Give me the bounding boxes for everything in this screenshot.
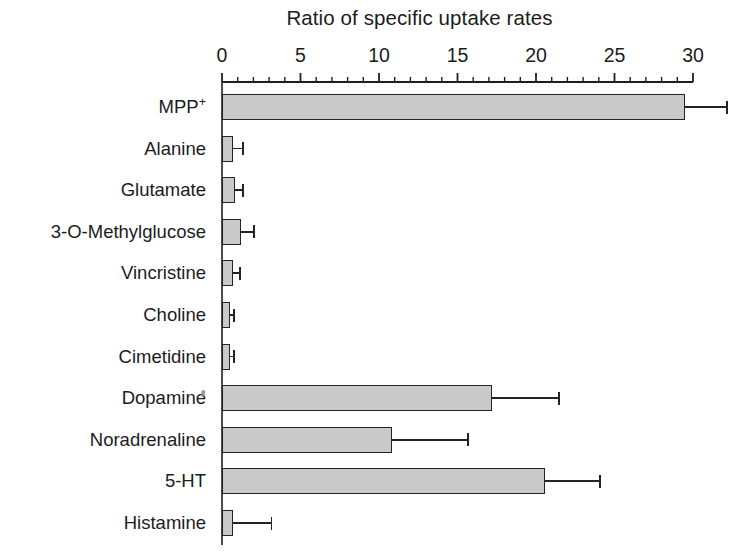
category-label-dopamine: Dopamine bbox=[122, 389, 206, 408]
error-bar-line-histamine bbox=[233, 522, 271, 524]
category-label-superscript: + bbox=[199, 95, 206, 109]
bar-histamine bbox=[222, 510, 233, 536]
error-bar-cap-5-ht bbox=[599, 475, 601, 488]
error-bar-line-3-o-methylglucose bbox=[241, 231, 254, 233]
category-label-glutamate: Glutamate bbox=[121, 181, 206, 200]
error-bar-line-mpp bbox=[685, 106, 726, 108]
category-label-text: 5-HT bbox=[165, 470, 206, 491]
bar-3-o-methylglucose bbox=[222, 219, 241, 245]
bar-cimetidine bbox=[222, 344, 230, 370]
category-label-text: Histamine bbox=[124, 512, 206, 533]
bar-chart-figure: Ratio of specific uptake rates 051015202… bbox=[0, 0, 751, 555]
bar-mpp bbox=[222, 94, 685, 120]
error-bar-cap-mpp bbox=[726, 101, 728, 114]
error-bar-cap-vincristine bbox=[239, 267, 241, 280]
category-label-text: Cimetidine bbox=[119, 345, 206, 366]
category-label-text: Dopamine bbox=[122, 387, 206, 408]
category-label-noradrenaline: Noradrenaline bbox=[90, 431, 206, 450]
bar-glutamate bbox=[222, 177, 235, 203]
category-label-choline: Choline bbox=[143, 306, 206, 325]
error-bar-cap-alanine bbox=[242, 142, 244, 155]
category-label-histamine: Histamine bbox=[124, 514, 206, 533]
category-label-text: Alanine bbox=[144, 137, 206, 158]
error-bar-line-noradrenaline bbox=[392, 439, 467, 441]
error-bar-line-dopamine bbox=[492, 397, 558, 399]
category-label-alanine: Alanine bbox=[144, 139, 206, 158]
bar-choline bbox=[222, 302, 230, 328]
bar-noradrenaline bbox=[222, 427, 392, 453]
error-bar-line-alanine bbox=[233, 148, 242, 150]
bar-5-ht bbox=[222, 468, 545, 494]
category-label-text: 3-O-Methylglucose bbox=[51, 221, 206, 242]
error-bar-cap-cimetidine bbox=[233, 350, 235, 363]
error-bar-cap-3-o-methylglucose bbox=[253, 225, 255, 238]
category-label-mpp: MPP+ bbox=[159, 98, 206, 117]
error-bar-cap-dopamine bbox=[558, 392, 560, 405]
plot-area: MPP+AlanineGlutamate3-O-MethylglucoseVin… bbox=[0, 0, 751, 555]
category-label-3-o-methylglucose: 3-O-Methylglucose bbox=[51, 223, 206, 242]
error-bar-line-5-ht bbox=[545, 480, 598, 482]
error-bar-line-glutamate bbox=[235, 189, 243, 191]
error-bar-cap-histamine bbox=[271, 517, 273, 530]
category-label-text: Noradrenaline bbox=[90, 429, 206, 450]
category-label-5-ht: 5-HT bbox=[165, 472, 206, 491]
category-label-text: Vincristine bbox=[121, 262, 206, 283]
category-label-text: MPP bbox=[159, 96, 199, 117]
category-label-vincristine: Vincristine bbox=[121, 264, 206, 283]
error-bar-cap-choline bbox=[233, 309, 235, 322]
error-bar-cap-glutamate bbox=[242, 184, 244, 197]
bar-vincristine bbox=[222, 260, 233, 286]
error-bar-cap-noradrenaline bbox=[467, 433, 469, 446]
category-label-text: Choline bbox=[143, 304, 206, 325]
category-label-text: Glutamate bbox=[121, 179, 206, 200]
bar-alanine bbox=[222, 136, 233, 162]
bar-dopamine bbox=[222, 385, 492, 411]
category-label-cimetidine: Cimetidine bbox=[119, 347, 206, 366]
